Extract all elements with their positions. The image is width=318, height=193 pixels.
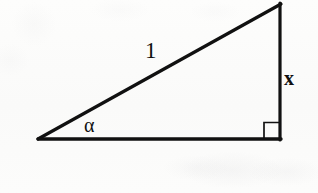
opposite-side-label: x bbox=[284, 68, 294, 88]
hypotenuse-label: 1 bbox=[145, 39, 157, 62]
hypotenuse-line bbox=[38, 4, 281, 139]
right-angle-marker-icon bbox=[264, 123, 280, 140]
right-triangle-figure: 1 x α bbox=[0, 0, 318, 193]
triangle-drawing bbox=[0, 0, 318, 193]
angle-alpha-label: α bbox=[84, 115, 94, 135]
